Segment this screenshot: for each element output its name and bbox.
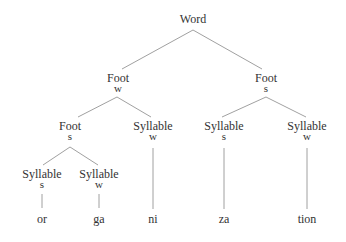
edge-footw-syllw bbox=[117, 97, 151, 117]
node-syllable-tion: Syllable w bbox=[287, 121, 326, 141]
edge-foot-syll-ga bbox=[70, 147, 98, 165]
segment-za: za bbox=[219, 212, 230, 227]
edge-word-foot-s bbox=[193, 30, 262, 69]
edge-word-foot-w bbox=[122, 30, 193, 69]
node-foot-inner: Foot s bbox=[59, 121, 81, 141]
node-syllable-za: Syllable s bbox=[204, 121, 243, 141]
node-syllable-or: Syllable s bbox=[22, 169, 61, 189]
segment-or: or bbox=[37, 212, 47, 227]
edge-foots-sylls bbox=[222, 97, 266, 117]
edge-foot-syll-or bbox=[43, 147, 70, 165]
node-syllable-ga: Syllable w bbox=[79, 169, 118, 189]
node-foot-weak: Foot w bbox=[107, 73, 129, 93]
edge-foots-syllw bbox=[266, 97, 306, 117]
segment-ni: ni bbox=[148, 212, 157, 227]
edge-footw-foots bbox=[78, 97, 117, 117]
node-syllable-ni: Syllable w bbox=[133, 121, 172, 141]
segment-ga: ga bbox=[93, 212, 104, 227]
node-foot-strong: Foot s bbox=[255, 73, 277, 93]
segment-tion: tion bbox=[298, 212, 317, 227]
node-word: Word bbox=[180, 14, 206, 24]
node-label: Word bbox=[180, 14, 206, 24]
